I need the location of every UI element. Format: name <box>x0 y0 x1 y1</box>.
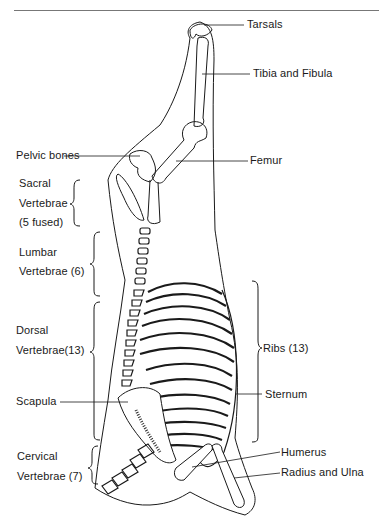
ribs-brace <box>252 281 262 442</box>
label-dorsal-1: Dorsal <box>16 321 48 340</box>
label-radius-ulna: Radius and Ulna <box>281 463 364 482</box>
label-sacral-3: (5 fused) <box>19 213 63 232</box>
humerus-bone <box>174 444 212 480</box>
label-humerus: Humerus <box>281 443 326 462</box>
sternum-bone <box>200 290 237 467</box>
dorsal-brace <box>90 302 100 440</box>
label-ribs: Ribs (13) <box>263 339 309 358</box>
radius-ulna-leader <box>234 473 280 478</box>
label-tarsals: Tarsals <box>247 15 283 34</box>
tarsals-bone <box>190 24 212 38</box>
label-femur: Femur <box>250 151 282 170</box>
label-sacral-1: Sacral <box>19 174 51 193</box>
pelvic-shaft <box>148 180 160 224</box>
label-cervical-1: Cervical <box>17 447 58 466</box>
cervical-vertebrae <box>102 444 154 494</box>
femur-bone <box>152 122 207 183</box>
tibia-fibula-bone <box>194 37 208 126</box>
label-pelvic-bones: Pelvic bones <box>16 146 80 165</box>
sacral-brace <box>70 180 80 226</box>
pelvic-bone <box>129 151 155 182</box>
lumbar-vertebrae <box>135 228 150 284</box>
label-cervical-2: Vertebrae (7) <box>17 467 83 486</box>
carcass-outline <box>95 22 255 515</box>
label-sacral-2: Vertebrae <box>19 194 68 213</box>
label-lumbar-1: Lumbar <box>19 243 57 262</box>
label-sternum: Sternum <box>265 385 307 404</box>
sacrum <box>116 174 144 220</box>
label-dorsal-2: Vertebrae(13) <box>16 341 85 360</box>
label-lumbar-2: Vertebrae (6) <box>19 262 85 281</box>
label-scapula: Scapula <box>16 392 56 411</box>
scapula-bone <box>118 388 176 463</box>
dorsal-vertebrae <box>122 290 144 386</box>
label-tibia-fibula: Tibia and Fibula <box>253 64 332 83</box>
lumbar-brace <box>90 232 100 296</box>
